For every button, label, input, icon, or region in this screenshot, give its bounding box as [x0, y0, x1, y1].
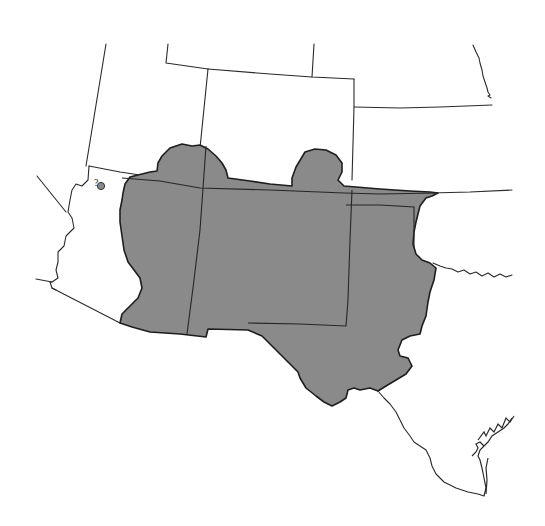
border-utah-north — [166, 44, 208, 69]
uncertain-record: ? — [94, 177, 105, 190]
river-red — [433, 263, 512, 277]
border-nevada-utah — [86, 44, 106, 166]
border-utah-colorado — [200, 69, 208, 148]
border-california-mexico — [36, 279, 52, 282]
border-wyoming-nebraska — [312, 44, 314, 77]
river-missouri — [473, 45, 491, 98]
map-caption — [0, 518, 545, 526]
river-rio-grande — [378, 391, 484, 496]
border-nebraska-kansas — [354, 105, 492, 108]
border-arizona-mexico — [52, 288, 120, 323]
border-arizona-california — [50, 166, 89, 290]
range-map: ? — [0, 0, 545, 526]
species-range — [120, 144, 438, 406]
range-main — [120, 144, 438, 406]
border-wyoming-colorado — [208, 69, 354, 79]
record-dot-icon — [97, 182, 104, 189]
border-colorado-east — [352, 79, 354, 180]
border-nevada-california — [37, 176, 66, 212]
border-kansas-oklahoma — [430, 190, 512, 193]
padre-island — [486, 458, 488, 494]
